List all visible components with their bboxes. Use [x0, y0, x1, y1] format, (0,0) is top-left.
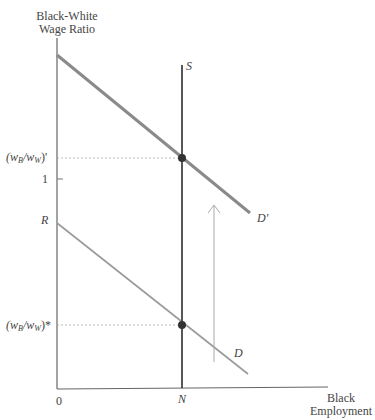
x-tick-label-n: N	[178, 393, 186, 406]
ratio-prime-sub-w: W	[34, 156, 41, 165]
supply-label: S	[186, 60, 192, 73]
demand-curve-shifted	[57, 55, 250, 213]
y-axis-label-line2: Wage Ratio	[22, 23, 112, 36]
demand-shifted-label: D'	[257, 212, 268, 225]
x-axis-label: Black Employment	[306, 392, 375, 418]
ratio-star-mid: /w	[23, 318, 34, 332]
ratio-star-sub-w: W	[34, 324, 41, 333]
demand-label: D	[234, 347, 243, 360]
wage-ratio-prime-label: (wB/wW)'	[6, 151, 47, 167]
wage-ratio-star-label: (wB/wW)*	[6, 319, 51, 335]
origin-label: 0	[56, 395, 62, 408]
y-tick-label-one: 1	[42, 173, 48, 186]
x-axis-label-line2: Employment	[306, 405, 375, 418]
equilibrium-point-prime	[178, 154, 186, 162]
demand-curve	[57, 223, 248, 374]
x-axis	[57, 387, 328, 389]
ratio-star-close: )*	[41, 318, 51, 332]
ratio-star-open: (w	[6, 318, 18, 332]
ratio-prime-close: )'	[41, 150, 47, 164]
ratio-prime-open: (w	[6, 150, 18, 164]
y-axis-label: Black-White Wage Ratio	[22, 10, 112, 36]
equilibrium-point-star	[178, 321, 186, 329]
ratio-prime-mid: /w	[23, 150, 34, 164]
r-intercept-label: R	[41, 214, 48, 227]
